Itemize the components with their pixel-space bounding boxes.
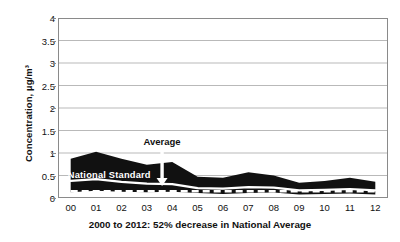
y-tick-mark xyxy=(51,131,56,132)
x-tick-label: 03 xyxy=(142,202,153,213)
y-tick-label: 2.5 xyxy=(9,80,55,91)
y-tick-mark xyxy=(51,63,56,64)
y-tick-mark xyxy=(51,18,56,19)
y-tick-mark xyxy=(51,86,56,87)
annotation-average-label: Average xyxy=(143,136,180,147)
x-tick-label: 05 xyxy=(192,202,203,213)
x-tick-label: 00 xyxy=(65,202,76,213)
y-tick-mark xyxy=(51,41,56,42)
y-tick-mark xyxy=(51,108,56,109)
y-axis-tick-labels: 00.511.522.533.54 xyxy=(0,0,55,242)
y-tick-label: 3.5 xyxy=(9,35,55,46)
x-tick-label: 09 xyxy=(294,202,305,213)
x-tick-label: 02 xyxy=(116,202,127,213)
y-tick-mark xyxy=(51,176,56,177)
x-tick-label: 01 xyxy=(91,202,102,213)
x-tick-label: 07 xyxy=(243,202,254,213)
air-quality-trend-chart: Concentration, µg/m³ 00.511.522.533.54 A… xyxy=(0,0,400,242)
x-tick-label: 11 xyxy=(345,202,355,213)
x-axis-title: 2000 to 2012: 52% decrease in National A… xyxy=(0,219,400,230)
x-tick-label: 12 xyxy=(370,202,381,213)
y-tick-label: 2 xyxy=(9,103,55,114)
x-tick-label: 04 xyxy=(167,202,178,213)
y-tick-label: 3 xyxy=(9,58,55,69)
y-tick-label: 1.5 xyxy=(9,125,55,136)
x-tick-label: 10 xyxy=(319,202,330,213)
annotation-national-standard-label: National Standard xyxy=(68,170,151,180)
y-tick-label: 1 xyxy=(9,148,55,159)
y-tick-label: 0 xyxy=(9,193,55,204)
y-tick-mark xyxy=(51,198,56,199)
x-tick-label: 06 xyxy=(218,202,229,213)
x-tick-label: 08 xyxy=(268,202,279,213)
y-tick-mark xyxy=(51,153,56,154)
gridlines xyxy=(58,18,388,176)
y-tick-label: 4 xyxy=(9,13,55,24)
y-tick-label: 0.5 xyxy=(9,170,55,181)
